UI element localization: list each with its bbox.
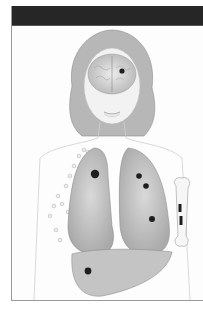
illustration-frame bbox=[11, 6, 203, 301]
lung-lesion bbox=[149, 216, 155, 222]
lung-lesion bbox=[143, 183, 149, 189]
lung-lesion bbox=[91, 170, 99, 178]
metastasis-illustration bbox=[12, 26, 203, 300]
liver-lesion bbox=[85, 268, 92, 275]
bone-lesion bbox=[180, 216, 183, 225]
brain-lesion bbox=[119, 68, 124, 73]
liver bbox=[72, 249, 172, 296]
bone-lesion bbox=[179, 204, 182, 212]
brain bbox=[88, 54, 136, 94]
left-lung bbox=[119, 148, 169, 254]
lung-lesion bbox=[136, 173, 142, 179]
header-bar bbox=[12, 6, 203, 26]
right-lung bbox=[68, 148, 114, 254]
humerus-bone bbox=[174, 178, 189, 247]
